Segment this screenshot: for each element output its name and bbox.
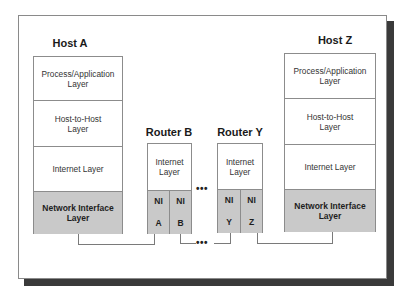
- host-z-internet-layer: Internet Layer: [285, 144, 375, 189]
- router-y-ni-z-label: NI: [247, 195, 256, 205]
- link-router-y-host-z-up: [332, 232, 333, 244]
- router-b-ni-b: NI B: [170, 191, 191, 234]
- host-a-stack: Process/Application Layer Host-to-Host L…: [33, 56, 123, 234]
- router-y-ni-y-id: Y: [226, 217, 232, 227]
- host-a-application-layer: Process/Application Layer: [34, 57, 122, 100]
- router-b-ni-b-id: B: [177, 218, 183, 228]
- link-router-b-out-horizontal: [180, 243, 196, 244]
- host-z-transport-layer: Host-to-Host Layer: [285, 98, 375, 144]
- router-y-internet-layer: Internet Layer: [218, 144, 262, 189]
- router-b-ni-a: NI A: [148, 191, 170, 234]
- host-a-transport-layer: Host-to-Host Layer: [34, 100, 122, 146]
- link-router-y-in-horizontal: [214, 243, 231, 244]
- router-b-ni-a-label: NI: [154, 196, 163, 206]
- host-a-network-interface-layer: Network Interface Layer: [34, 191, 122, 234]
- host-a-internet-layer: Internet Layer: [34, 146, 122, 191]
- router-b-title: Router B: [144, 126, 194, 138]
- router-b-internet-layer: Internet Layer: [148, 144, 191, 190]
- host-z-title: Host Z: [302, 34, 368, 46]
- router-y-ni-y: NI Y: [218, 190, 241, 233]
- router-y-stack: Internet Layer NI Y NI Z: [217, 143, 263, 233]
- host-z-stack: Process/Application Layer Host-to-Host L…: [284, 53, 376, 232]
- router-b-ni-row: NI A NI B: [148, 190, 191, 234]
- host-z-network-interface-layer: Network Interface Layer: [285, 189, 375, 232]
- router-b-stack: Internet Layer NI A NI B: [147, 143, 192, 234]
- host-a-title: Host A: [33, 37, 107, 49]
- link-router-y-in-up: [230, 233, 231, 244]
- ellipsis-lower: •••: [196, 240, 208, 246]
- router-b-ni-b-label: NI: [176, 196, 185, 206]
- link-host-a-router-b-up: [154, 234, 155, 245]
- ellipsis-upper: •••: [196, 186, 208, 192]
- router-y-ni-y-label: NI: [225, 195, 234, 205]
- router-y-ni-z: NI Z: [241, 190, 262, 233]
- router-y-ni-z-id: Z: [249, 217, 254, 227]
- link-router-y-host-z-horizontal: [257, 243, 333, 244]
- router-y-ni-row: NI Y NI Z: [218, 189, 262, 233]
- host-z-application-layer: Process/Application Layer: [285, 54, 375, 98]
- link-host-a-router-b-horizontal: [78, 244, 155, 245]
- router-y-title: Router Y: [214, 126, 266, 138]
- router-b-ni-a-id: A: [155, 218, 161, 228]
